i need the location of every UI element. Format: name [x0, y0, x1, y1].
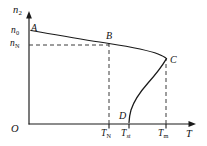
y-axis-label-sub: 2: [18, 9, 21, 16]
y-tick-label-nN-sub: N: [15, 42, 20, 49]
y-axis-arrowhead: [26, 11, 32, 19]
x-tick-label-TN: TN: [101, 129, 111, 139]
point-label-b: B: [106, 31, 112, 41]
origin-label-text: O: [11, 123, 19, 134]
x-tick-label-TN-sub: N: [106, 132, 111, 139]
y-tick-label-nN: nN: [10, 39, 19, 49]
x-tick-label-Tm-sub: m: [163, 132, 168, 139]
point-label-a-text: A: [31, 22, 37, 33]
x-tick-label-Tst-sub: st: [126, 132, 130, 139]
point-label-c-text: C: [170, 54, 177, 65]
curve-lower-branch-CD: [129, 59, 167, 123]
point-label-d-text: D: [119, 110, 126, 121]
chart-figure: n2 n0 nN TN Tst Tm T O A B C D: [0, 0, 207, 146]
x-tick-label-Tst: Tst: [121, 129, 130, 139]
x-axis-arrowhead: [189, 121, 197, 127]
point-label-a: A: [31, 23, 37, 33]
y-tick-label-n0: n0: [11, 26, 19, 36]
point-label-c: C: [170, 55, 177, 65]
x-axis-label: T: [186, 129, 192, 140]
y-axis-label: n2: [13, 5, 22, 16]
x-axis-label-text: T: [186, 128, 192, 139]
origin-label: O: [11, 124, 19, 135]
y-tick-label-n0-sub: 0: [16, 29, 19, 36]
point-label-d: D: [119, 111, 126, 121]
x-tick-label-Tm: Tm: [158, 129, 168, 139]
point-label-b-text: B: [106, 30, 112, 41]
